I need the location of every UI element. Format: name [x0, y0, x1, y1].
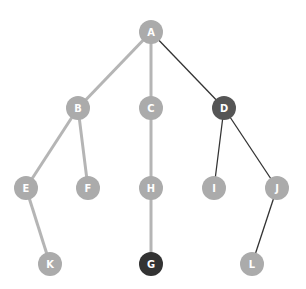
node-i: I — [202, 176, 226, 200]
edge-b-f — [78, 108, 88, 188]
node-label: E — [23, 182, 30, 195]
edge-a-b — [78, 32, 151, 108]
node-label: H — [147, 182, 155, 195]
node-label: I — [212, 182, 216, 195]
tree-canvas: ABCDEFHIJKGL — [0, 0, 306, 289]
node-f: F — [76, 176, 100, 200]
edge-d-i — [214, 108, 224, 188]
node-c: C — [139, 96, 163, 120]
tree-diagram: ABCDEFHIJKGL — [0, 0, 306, 289]
edge-j-l — [252, 188, 277, 264]
edges-layer — [26, 32, 277, 264]
node-label: C — [147, 102, 154, 115]
node-d: D — [212, 96, 236, 120]
node-label: J — [274, 182, 279, 195]
node-label: D — [220, 102, 228, 115]
node-label: F — [85, 182, 92, 195]
node-k: K — [38, 252, 62, 276]
node-label: G — [147, 258, 155, 271]
edge-b-e — [26, 108, 78, 188]
node-label: L — [249, 258, 256, 271]
node-g: G — [139, 252, 163, 276]
node-j: J — [265, 176, 289, 200]
node-a: A — [139, 20, 163, 44]
node-label: K — [46, 258, 54, 271]
edge-a-d — [151, 32, 224, 108]
node-e: E — [14, 176, 38, 200]
edge-d-j — [224, 108, 277, 188]
node-label: B — [74, 102, 82, 115]
node-label: A — [147, 26, 155, 39]
node-b: B — [66, 96, 90, 120]
node-h: H — [139, 176, 163, 200]
node-l: L — [240, 252, 264, 276]
